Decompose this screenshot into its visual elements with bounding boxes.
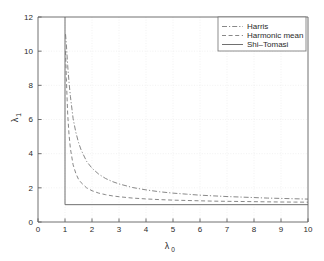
x-tick-label: 8 [252, 225, 257, 234]
legend-label: Harmonic mean [247, 31, 303, 40]
x-tick-label: 2 [90, 225, 95, 234]
y-tick-label: 8 [29, 81, 34, 90]
y-tick-label: 2 [29, 184, 34, 193]
figure-canvas: 0 1 2 3 4 5 6 7 8 9 10 0 2 4 6 8 10 12 λ… [0, 0, 324, 261]
x-tick-label: 10 [304, 225, 313, 234]
y-tick-label: 6 [29, 115, 34, 124]
x-tick-label: 6 [198, 225, 203, 234]
y-tick-label: 12 [24, 13, 33, 22]
legend-label: Harris [247, 22, 268, 31]
x-tick-label: 3 [117, 225, 122, 234]
x-tick-label: 5 [171, 225, 176, 234]
x-tick-label: 1 [63, 225, 68, 234]
x-axis-label-subscript: 0 [171, 246, 175, 253]
y-axis-label-symbol: λ [10, 117, 20, 122]
y-axis-label-subscript: 1 [15, 113, 22, 117]
x-tick-label: 4 [144, 225, 149, 234]
legend-label: Shi–Tomasi [247, 40, 289, 49]
legend[interactable]: Harris Harmonic mean Shi–Tomasi [218, 17, 306, 51]
y-tick-label: 10 [24, 47, 33, 56]
plot-svg: 0 1 2 3 4 5 6 7 8 9 10 0 2 4 6 8 10 12 λ… [0, 0, 324, 261]
x-axis-label-symbol: λ [165, 241, 170, 251]
x-tick-label: 0 [36, 225, 41, 234]
x-tick-label: 7 [225, 225, 230, 234]
x-tick-label: 9 [279, 225, 284, 234]
y-tick-label: 4 [29, 149, 34, 158]
y-tick-label: 0 [29, 218, 34, 227]
